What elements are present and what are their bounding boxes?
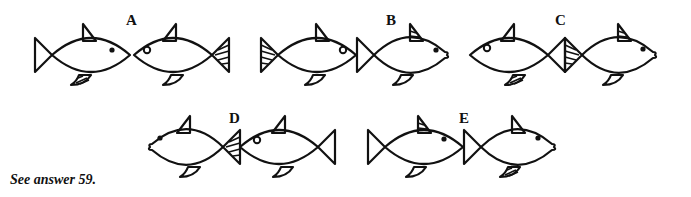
eye-filled-icon	[433, 47, 438, 52]
eye-hollow-icon	[484, 45, 490, 51]
eye-hollow-icon	[254, 137, 260, 143]
fish-pair-d	[149, 116, 335, 177]
eye-filled-icon	[441, 136, 446, 141]
fish-b-right	[357, 24, 448, 85]
eye-filled-icon	[535, 135, 540, 140]
answer-reference: See answer 59.	[10, 172, 96, 188]
fish-c-right	[565, 24, 656, 85]
fish-b-left	[261, 24, 356, 85]
eye-filled-icon	[157, 135, 162, 140]
fish-pair-c	[470, 24, 656, 85]
fish-puzzle-drawing	[0, 0, 691, 197]
eye-filled-icon	[640, 46, 645, 51]
eye-hollow-icon	[340, 47, 346, 53]
fish-a-right	[134, 24, 229, 85]
eye-filled-icon	[109, 47, 114, 52]
label-c: C	[555, 13, 566, 28]
fish-d-left	[149, 116, 240, 177]
fish-e-left	[368, 116, 463, 177]
fish-puzzle: A B C D E See answer 59.	[0, 0, 691, 197]
fish-c-left	[470, 24, 565, 85]
fish-pair-a	[35, 24, 229, 85]
label-e: E	[459, 111, 469, 126]
label-b: B	[386, 13, 396, 28]
label-a: A	[126, 13, 137, 28]
label-d: D	[229, 111, 240, 126]
eye-hollow-icon	[144, 47, 150, 53]
fish-d-right	[240, 116, 335, 177]
fish-a-left	[35, 24, 130, 85]
fish-e-right	[464, 116, 555, 177]
fish-pair-b	[261, 24, 448, 85]
